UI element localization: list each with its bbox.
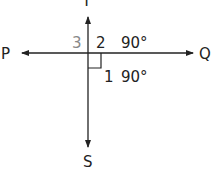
- point-label-left: P: [1, 45, 10, 63]
- angle-2-label: 2: [96, 34, 106, 52]
- perpendicular-lines-diagram: T P Q S 3 2 90° 1 90°: [0, 0, 212, 179]
- angle-1-value: 90°: [121, 68, 148, 86]
- point-label-top: T: [81, 0, 92, 10]
- angle-3-label: 3: [72, 34, 82, 52]
- point-label-bottom: S: [83, 153, 93, 171]
- angle-2-value: 90°: [121, 34, 148, 52]
- angle-1-label: 1: [104, 68, 114, 86]
- right-angle-marker: [88, 53, 101, 68]
- point-label-right: Q: [199, 45, 211, 63]
